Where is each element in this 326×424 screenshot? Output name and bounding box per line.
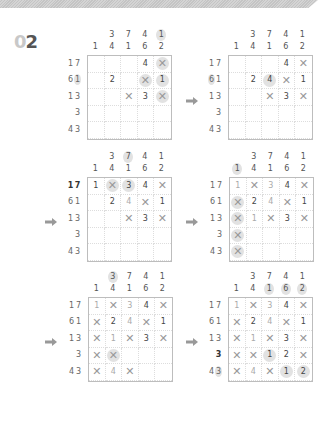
clue-number (90, 29, 100, 41)
clue-number: 3 (216, 246, 223, 257)
grid-cell: 3 (138, 211, 155, 228)
grid-cell: ✕ (246, 298, 263, 315)
grid-cell: 1 (155, 315, 172, 332)
grid-cell (121, 73, 138, 90)
grid-cell: 2 (105, 195, 122, 212)
grid-cell (262, 122, 279, 139)
cell-value: 4 (263, 74, 276, 87)
cross-mark-icon: ✕ (156, 179, 169, 192)
puzzle-step-4: 1347146121761133431✕34✕✕24✕1✕1✕3✕✕✕ (229, 177, 314, 262)
clue-number: 3 (74, 124, 81, 135)
clue-number: 1 (68, 333, 75, 344)
grid-cell (138, 106, 155, 123)
cross-mark-icon: ✕ (297, 349, 310, 362)
cell-value: 4 (139, 179, 152, 192)
clue-number: 1 (208, 300, 215, 311)
clue-number (90, 151, 100, 163)
grid-cell (154, 122, 171, 139)
clue-number: 1 (216, 196, 223, 207)
row-clue: 17 (209, 177, 223, 194)
cross-mark-icon: ✕ (263, 90, 276, 103)
column-clue: 12 (154, 271, 171, 295)
grid-cell (88, 244, 105, 261)
column-clue: 12 (153, 29, 170, 53)
grid-cell (279, 122, 296, 139)
grid-cell: 1 (262, 348, 279, 365)
clue-number: 4 (68, 366, 75, 377)
clue-number: 4 (248, 283, 258, 295)
grid-cell: ✕ (262, 89, 279, 106)
grid-cell: 4 (138, 56, 155, 73)
clue-number: 7 (124, 271, 134, 283)
cross-mark-icon: ✕ (231, 212, 244, 225)
grid-cell (247, 244, 264, 261)
clue-number: 4 (107, 163, 117, 175)
cell-value: 1 (297, 316, 310, 329)
row-clue: 3 (209, 227, 223, 244)
clue-number: 1 (232, 163, 242, 175)
clue-number (232, 151, 242, 163)
row-clue: 13 (68, 330, 82, 347)
clue-number: 3 (75, 366, 82, 377)
clue-number: 1 (67, 180, 74, 191)
clue-number: 3 (107, 151, 117, 163)
clue-number: 6 (282, 163, 292, 175)
cross-mark-icon: ✕ (298, 212, 311, 225)
grid-cell (88, 122, 105, 139)
column-clue: 34 (246, 151, 263, 175)
grid-cell (88, 73, 105, 90)
row-clue: 13 (67, 88, 81, 105)
cross-mark-icon: ✕ (122, 90, 135, 103)
clue-number: 1 (298, 151, 308, 163)
clue-number: 1 (124, 283, 134, 295)
grid-cell: ✕ (230, 228, 247, 245)
column-clues: 134714612 (88, 271, 171, 295)
grid-cell: ✕ (138, 73, 155, 90)
cross-mark-icon: ✕ (90, 332, 103, 345)
grid-cell: ✕ (121, 89, 138, 106)
column-clue: 46 (278, 271, 295, 295)
grid-cell: ✕ (230, 244, 247, 261)
puzzle-step-5: 1347146121761133431✕34✕✕24✕1✕1✕3✕✕✕✕4✕ (88, 297, 173, 382)
clue-number: 6 (281, 41, 291, 53)
column-clue: 46 (138, 271, 155, 295)
clue-number: 3 (215, 333, 222, 344)
cross-mark-icon: ✕ (156, 212, 169, 225)
grid-cell (229, 122, 246, 139)
clue-number: 7 (123, 151, 133, 163)
column-clues: 134714612 (228, 29, 311, 53)
puzzle-step-1: 1347146121761133434✕2✕1✕3✕ (87, 55, 172, 140)
grid-cell: 4 (280, 178, 297, 195)
row-clue: 13 (208, 330, 222, 347)
cell-value: 4 (247, 365, 260, 378)
grid-cell: ✕ (89, 348, 106, 365)
clue-number: 4 (208, 124, 215, 135)
grid-cell: ✕ (296, 211, 313, 228)
cell-value: 4 (123, 316, 136, 329)
grid-cell: 4 (122, 315, 139, 332)
column-clue: 12 (294, 29, 311, 53)
cell-value: 2 (106, 74, 119, 87)
grid-cell (229, 106, 246, 123)
row-clue: 3 (67, 105, 81, 122)
cross-mark-icon: ✕ (230, 365, 243, 378)
row-clue: 61 (208, 72, 222, 89)
grid-cell: ✕ (138, 195, 155, 212)
clue-number: 1 (264, 283, 274, 295)
clue-number: 4 (208, 366, 215, 377)
clue-number: 1 (264, 41, 274, 53)
right-arrow-icon (45, 218, 57, 226)
grid-cell: ✕ (279, 73, 296, 90)
clue-number: 1 (123, 163, 133, 175)
clue-number: 7 (265, 151, 275, 163)
clue-number: 3 (107, 29, 117, 41)
grid-cell: 4 (262, 315, 279, 332)
cell-value: 1 (248, 212, 261, 225)
clue-number: 7 (215, 58, 222, 69)
cell-value: 3 (280, 332, 293, 345)
clue-number: 2 (157, 283, 167, 295)
cross-mark-icon: ✕ (90, 349, 103, 362)
clue-number: 4 (140, 151, 150, 163)
cross-mark-icon: ✕ (90, 316, 103, 329)
cross-mark-icon: ✕ (297, 299, 310, 312)
